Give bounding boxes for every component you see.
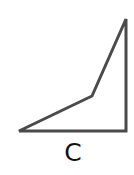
shape-label: C <box>58 139 88 167</box>
polygon-shape-c <box>19 19 126 131</box>
